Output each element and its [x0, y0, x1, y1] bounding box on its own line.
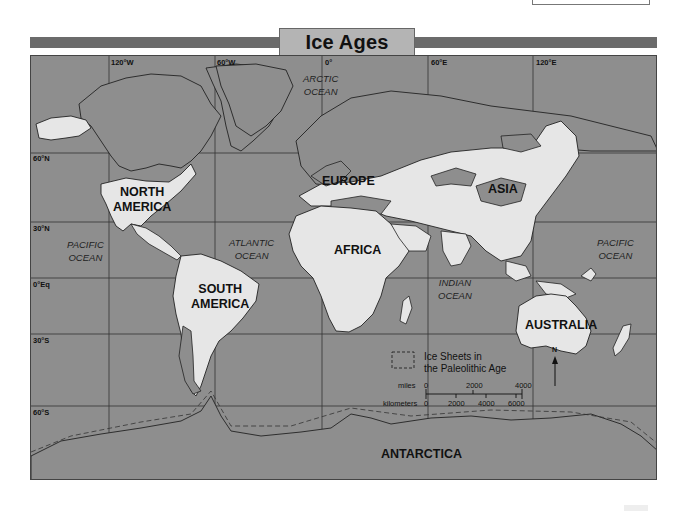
- scale-miles-label: miles: [398, 381, 416, 390]
- longitude-label-60e: 60°E: [431, 58, 447, 67]
- latitude-label-equator: 0°Eq: [33, 280, 50, 289]
- label-south-america: SOUTH AMERICA: [191, 282, 249, 312]
- world-map: [31, 56, 657, 480]
- latitude-label-30s: 30°S: [33, 336, 49, 345]
- new-zealand: [613, 324, 631, 356]
- longitude-label-120w: 120°W: [111, 58, 134, 67]
- legend-ice-sheet-symbol: [392, 352, 414, 368]
- scale-km-2000: 2000: [448, 399, 465, 408]
- scale-km-0: 0: [424, 399, 428, 408]
- label-arctic-ocean: ARCTIC OCEAN: [303, 72, 338, 98]
- scale-miles-2000: 2000: [466, 381, 483, 390]
- label-pacific-ocean-east: PACIFIC OCEAN: [597, 236, 634, 262]
- page-number-box: [624, 505, 648, 511]
- southeast-asia-islands: [506, 261, 596, 298]
- alaska-unglaciated: [36, 116, 91, 140]
- scale-km-4000: 4000: [478, 399, 495, 408]
- antarctica: [31, 396, 657, 480]
- madagascar: [400, 296, 412, 324]
- longitude-label-60w: 60°W: [217, 58, 235, 67]
- label-africa: AFRICA: [334, 243, 381, 258]
- legend-label: Ice Sheets in the Paleolithic Age: [424, 351, 506, 375]
- latitude-label-60s: 60°S: [33, 408, 49, 417]
- scale-miles-0: 0: [424, 381, 428, 390]
- label-antarctica: ANTARCTICA: [381, 447, 462, 462]
- map-frame: 120°W 60°W 0° 60°E 120°E 60°N 30°N 0°Eq …: [30, 55, 657, 480]
- label-pacific-ocean-west: PACIFIC OCEAN: [67, 238, 104, 264]
- scale-km-label: kilometers: [383, 399, 417, 408]
- longitude-label-120e: 120°E: [536, 58, 557, 67]
- label-australia: AUSTRALIA: [525, 318, 597, 333]
- map-title: Ice Ages: [305, 31, 388, 54]
- india: [441, 231, 471, 266]
- north-arrow-label: N: [552, 346, 557, 353]
- north-arrow-icon: [552, 356, 558, 386]
- africa-land: [289, 206, 409, 332]
- longitude-label-0: 0°: [325, 58, 332, 67]
- label-asia: ASIA: [488, 182, 518, 197]
- latitude-label-30n: 30°N: [33, 224, 50, 233]
- label-indian-ocean: INDIAN OCEAN: [438, 276, 472, 302]
- label-atlantic-ocean: ATLANTIC OCEAN: [229, 236, 274, 262]
- scale-km-6000: 6000: [508, 399, 525, 408]
- latitude-label-60n: 60°N: [33, 154, 50, 163]
- scale-bar: [426, 389, 522, 399]
- central-america: [131, 224, 181, 260]
- header-corner-box: [532, 0, 650, 5]
- title-tab: Ice Ages: [279, 28, 415, 56]
- label-europe: EUROPE: [322, 174, 375, 189]
- label-north-america: NORTH AMERICA: [113, 185, 171, 215]
- scale-miles-4000: 4000: [515, 381, 532, 390]
